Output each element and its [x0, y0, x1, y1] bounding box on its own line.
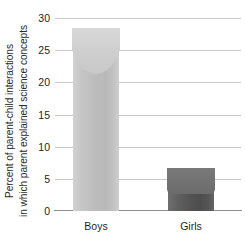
y-axis-title-line-1: Percent of parent-child interactions: [3, 44, 17, 198]
y-tick-label-10: 10: [32, 141, 50, 153]
x-tick-label-boys: Boys: [84, 220, 107, 232]
bar-boys-fill: [73, 28, 119, 211]
bar-girls[interactable]: [168, 168, 214, 211]
y-axis-title-line-2: in which parent explained science concep…: [17, 25, 31, 217]
y-tick-label-5: 5: [32, 173, 50, 185]
y-tick-label-30: 30: [32, 12, 50, 24]
y-tick-label-0: 0: [32, 205, 50, 217]
y-axis-title: Percent of parent-child interactions in …: [0, 0, 34, 241]
y-tick-label-15: 15: [32, 109, 50, 121]
plot-area: [55, 18, 241, 211]
bar-chart: Percent of parent-child interactions in …: [0, 0, 245, 241]
y-tick-label-20: 20: [32, 76, 50, 88]
gridline-30: [55, 18, 241, 19]
bar-girls-fill: [168, 168, 214, 211]
x-tick-label-girls: Girls: [180, 220, 202, 232]
bar-boys[interactable]: [73, 28, 119, 211]
y-tick-label-25: 25: [32, 44, 50, 56]
